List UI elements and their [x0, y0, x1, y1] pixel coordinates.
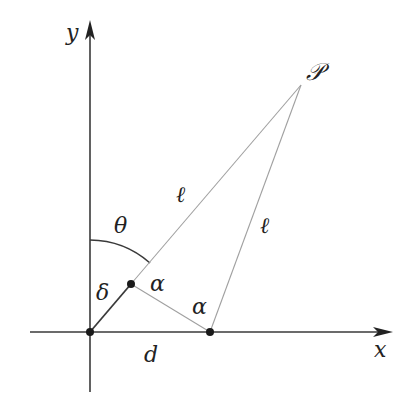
alpha-label-1: α [150, 271, 165, 296]
y-axis-label: y [65, 20, 79, 45]
point-P-label: 𝒫 [306, 58, 330, 86]
delta-label: δ [96, 280, 109, 305]
ell-line-2 [210, 85, 301, 332]
ell-line-1 [131, 85, 301, 284]
ell-label-1: ℓ [176, 182, 186, 207]
x-axis-label: x [374, 337, 387, 362]
d-point-dot [206, 328, 214, 336]
d-label: d [144, 342, 158, 367]
diagram-canvas: y x 𝒫 ℓ ℓ θ δ α α d [0, 0, 416, 410]
theta-label: θ [114, 213, 127, 238]
geometry-diagram: y x 𝒫 ℓ ℓ θ δ α α d [0, 0, 416, 410]
ell-label-2: ℓ [260, 213, 270, 238]
origin-dot [86, 328, 94, 336]
alpha-label-2: α [192, 294, 207, 319]
theta-arc [90, 240, 150, 263]
delta-end-dot [127, 280, 135, 288]
